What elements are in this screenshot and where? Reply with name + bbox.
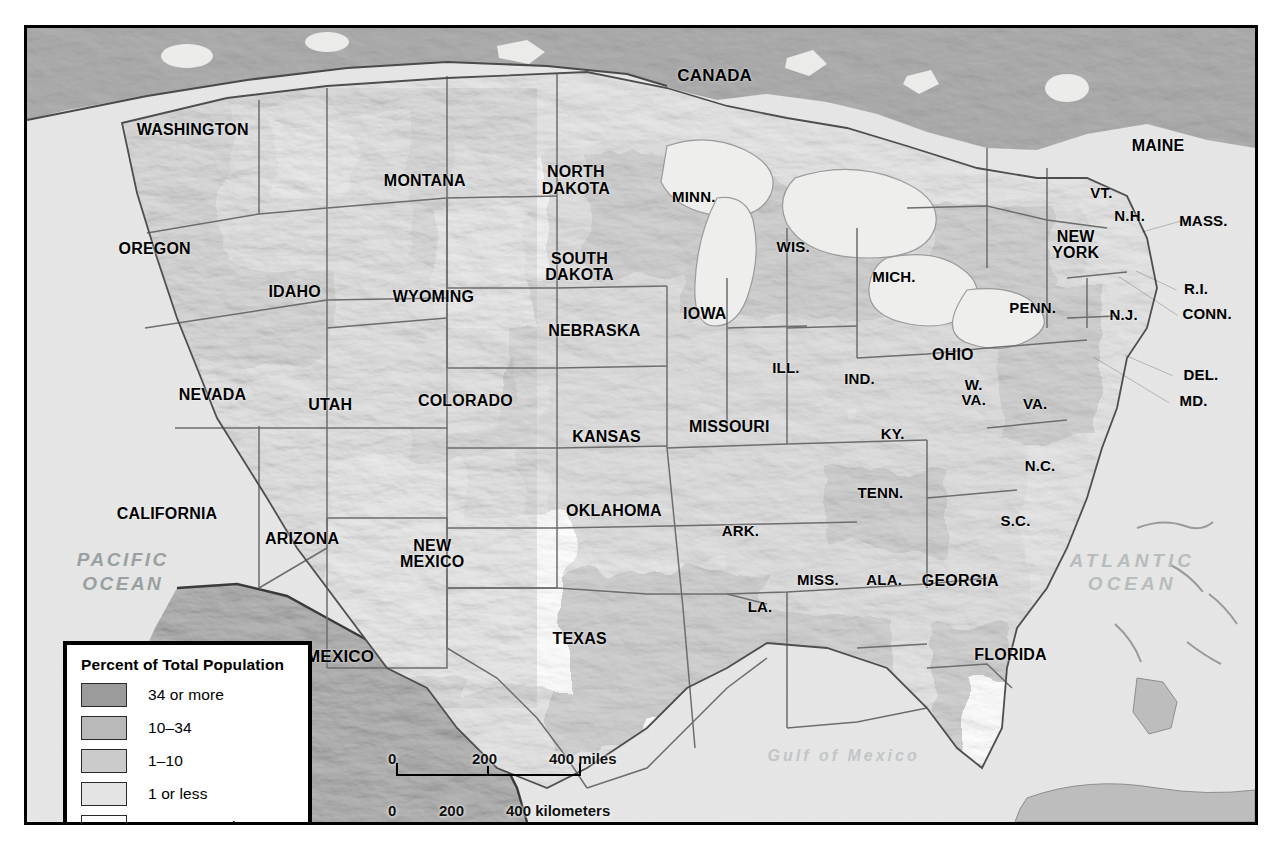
legend-rows: 34 or more10–341–101 or lessNot reported	[67, 681, 308, 825]
legend-swatch-3	[81, 782, 127, 806]
scale-miles-tick-400: 400 miles	[549, 750, 617, 767]
scale-bar-line	[396, 774, 581, 776]
legend-label-2: 1–10	[148, 752, 183, 770]
legend-label-3: 1 or less	[148, 785, 207, 803]
scale-km-tick-200: 200	[439, 802, 464, 819]
map-legend: Percent of Total Population 34 or more10…	[63, 641, 312, 825]
legend-swatch-4	[81, 815, 127, 825]
map-frame: WASHINGTONOREGONIDAHOMONTANANORTH DAKOTA…	[24, 25, 1258, 825]
legend-swatch-2	[81, 749, 127, 773]
scale-km-tick-0: 0	[388, 802, 396, 819]
scale-tick-right	[579, 763, 581, 776]
legend-row-4: Not reported	[81, 813, 308, 825]
scale-km-tick-400: 400 kilometers	[506, 802, 610, 819]
legend-swatch-0	[81, 683, 127, 707]
legend-title: Percent of Total Population	[81, 656, 308, 674]
legend-row-0: 34 or more	[81, 681, 308, 709]
legend-row-3: 1 or less	[81, 780, 308, 808]
scale-tick-left	[396, 763, 398, 776]
scale-km-row: 0 200 400 kilometers	[384, 802, 614, 824]
scale-miles-tick-200: 200	[472, 750, 497, 767]
legend-label-4: Not reported	[148, 818, 235, 825]
map-page: WASHINGTONOREGONIDAHOMONTANANORTH DAKOTA…	[0, 0, 1282, 851]
map-canvas: WASHINGTONOREGONIDAHOMONTANANORTH DAKOTA…	[27, 28, 1255, 822]
scale-bar: 0 200 400 miles 0 200 400 kilometers	[384, 750, 614, 825]
legend-label-0: 34 or more	[148, 686, 224, 704]
legend-row-2: 1–10	[81, 747, 308, 775]
legend-swatch-1	[81, 716, 127, 740]
legend-row-1: 10–34	[81, 714, 308, 742]
scale-tick-mid	[487, 766, 489, 775]
legend-label-1: 10–34	[148, 719, 192, 737]
